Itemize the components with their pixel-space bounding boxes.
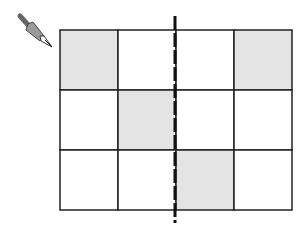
grid-cell — [176, 90, 234, 150]
pen-icon — [20, 16, 52, 47]
grid-cell — [234, 150, 292, 210]
shaded-cell — [118, 90, 176, 150]
shaded-cell — [176, 150, 234, 210]
grid-cell — [234, 90, 292, 150]
shaded-cell — [60, 30, 118, 90]
grid-cell — [118, 30, 176, 90]
grid-cell — [60, 150, 118, 210]
grid-cell — [176, 30, 234, 90]
grid-cell — [60, 90, 118, 150]
shaded-cell — [234, 30, 292, 90]
grid-cell — [118, 150, 176, 210]
diagram-canvas — [0, 0, 300, 231]
